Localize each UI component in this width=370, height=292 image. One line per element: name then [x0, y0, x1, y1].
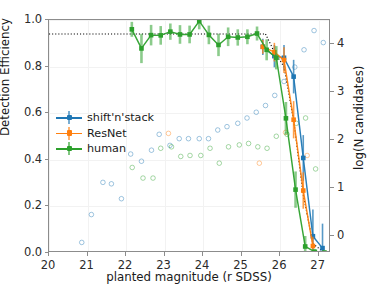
x-tick-label: 25 [233, 258, 248, 272]
candidate-marker [186, 136, 191, 141]
data-point [187, 32, 192, 37]
candidate-marker [157, 132, 162, 137]
candidate-marker [177, 136, 182, 141]
y-tick-label: 0.8 [24, 59, 42, 73]
candidate-marker [197, 136, 202, 141]
y-tick-mark [45, 159, 49, 160]
legend-item[interactable]: shift'n'stack [56, 110, 154, 126]
data-point [158, 33, 163, 38]
data-point [207, 33, 212, 38]
x-tick-mark [202, 252, 203, 256]
candidate-marker [166, 131, 171, 136]
candidate-marker [151, 176, 156, 181]
candidate-marker [263, 103, 268, 108]
data-point [291, 117, 296, 122]
candidate-marker [139, 159, 144, 164]
candidate-marker [257, 161, 262, 166]
data-point [282, 58, 287, 63]
x-tick-mark [164, 252, 165, 256]
y2-tick-mark [330, 139, 334, 140]
legend-label: shift'n'stack [87, 111, 154, 124]
candidate-marker [302, 47, 307, 52]
y-tick-mark [45, 19, 49, 20]
data-point [320, 246, 325, 251]
y-tick-label: 0.0 [24, 245, 42, 259]
data-point [311, 244, 316, 249]
data-point [322, 250, 327, 252]
candidate-marker [79, 240, 84, 245]
candidate-marker [265, 146, 270, 151]
candidate-marker [101, 180, 106, 185]
y-tick-label: 1.0 [24, 12, 42, 26]
candidate-marker [109, 182, 114, 187]
data-point [216, 43, 221, 48]
x-tick-mark [279, 252, 280, 256]
y-tick-mark [45, 205, 49, 206]
y-tick-label: 0.2 [24, 198, 42, 212]
data-point [178, 32, 183, 37]
x-tick-label: 20 [41, 258, 56, 272]
data-point [301, 188, 306, 193]
y2-tick-label: 2 [337, 132, 344, 146]
candidate-marker [226, 145, 231, 150]
y2-tick-label: 0 [337, 228, 344, 242]
candidate-marker [237, 143, 242, 148]
y-tick-label: 0.6 [24, 105, 42, 119]
x-tick-label: 24 [195, 258, 210, 272]
data-point [139, 46, 144, 51]
data-point [149, 33, 154, 38]
y-tick-mark [45, 66, 49, 67]
legend-marker-icon [56, 127, 82, 140]
candidate-marker [225, 124, 230, 129]
candidate-marker [141, 176, 146, 181]
data-point [284, 116, 289, 121]
series-resnet [261, 40, 316, 252]
y2-tick-label: 3 [337, 84, 344, 98]
candidate-marker [158, 146, 163, 151]
candidate-marker [313, 167, 318, 172]
candidate-marker [130, 165, 135, 170]
x-tick-mark [87, 252, 88, 256]
candidate-marker [188, 153, 193, 158]
legend-marker-icon [56, 111, 82, 124]
y2-tick-mark [330, 91, 334, 92]
candidate-marker [303, 116, 308, 121]
candidate-marker [282, 79, 287, 84]
data-point [226, 34, 231, 39]
data-point [291, 74, 296, 79]
data-point [264, 48, 269, 53]
candidate-marker [217, 161, 222, 166]
figure-canvas: Detection Efficiency log(N candidates) p… [0, 0, 370, 292]
candidate-marker [178, 154, 183, 159]
data-point [303, 244, 308, 249]
candidate-marker [235, 121, 240, 126]
x-tick-label: 23 [156, 258, 171, 272]
legend-marker-icon [56, 142, 82, 155]
series-line [263, 47, 313, 246]
x-tick-mark [48, 252, 49, 256]
y2-tick-label: 4 [337, 36, 344, 50]
candidate-marker [274, 134, 279, 139]
candidate-marker [254, 110, 259, 115]
x-tick-label: 26 [272, 258, 287, 272]
series-human [130, 19, 327, 252]
x-tick-mark [125, 252, 126, 256]
y2-tick-label: 1 [337, 180, 344, 194]
series-shiftnstack [261, 39, 325, 252]
x-tick-mark [318, 252, 319, 256]
candidate-marker [246, 141, 251, 146]
legend-item[interactable]: ResNet [56, 126, 154, 142]
legend-label: ResNet [87, 127, 127, 140]
legend-item[interactable]: human [56, 141, 154, 157]
x-tick-label: 27 [310, 258, 325, 272]
data-point [245, 34, 250, 39]
y2-tick-mark [330, 43, 334, 44]
candidate-marker [245, 116, 250, 121]
data-point [197, 19, 202, 23]
candidate-marker [272, 93, 277, 98]
x-tick-label: 22 [118, 258, 133, 272]
data-point [255, 31, 260, 36]
data-point [235, 35, 240, 40]
y2-tick-mark [330, 235, 334, 236]
candidate-marker [256, 145, 261, 150]
